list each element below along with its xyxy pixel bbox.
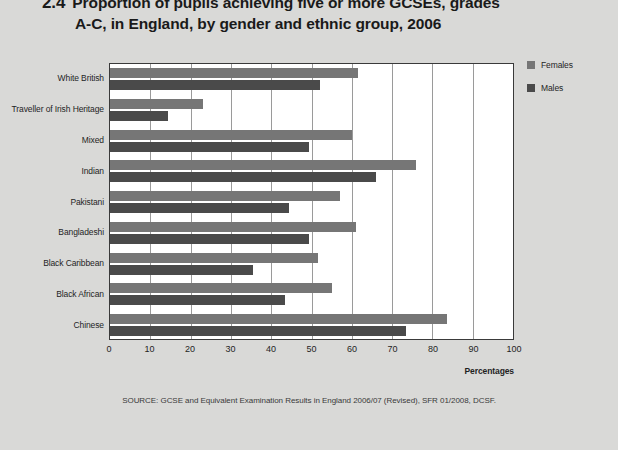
bar-group xyxy=(110,249,513,280)
bar-females xyxy=(110,160,416,170)
x-axis-tick-label: 50 xyxy=(306,344,316,354)
y-axis-labels: White BritishTraveller of Irish Heritage… xyxy=(0,63,104,340)
bar-females xyxy=(110,314,447,324)
x-axis-tick-label: 60 xyxy=(347,344,357,354)
y-axis-tick-label: Indian xyxy=(0,166,104,176)
bar-group xyxy=(110,218,513,249)
legend-swatch-icon xyxy=(527,84,535,92)
bar-males xyxy=(110,203,289,213)
bar-females xyxy=(110,283,332,293)
y-axis-tick-label: Bangladeshi xyxy=(0,227,104,237)
legend-label: Females xyxy=(541,60,573,70)
bar-males xyxy=(110,172,376,182)
x-axis-tick-label: 100 xyxy=(506,344,521,354)
chart-container: White BritishTraveller of Irish Heritage… xyxy=(0,56,618,356)
source-note: SOURCE: GCSE and Equivalent Examination … xyxy=(0,396,618,405)
x-axis-tick-label: 10 xyxy=(144,344,154,354)
y-axis-tick-label: Chinese xyxy=(0,320,104,330)
chart-legend: FemalesMales xyxy=(527,60,613,106)
bar-group xyxy=(110,187,513,218)
x-axis-tick-label: 80 xyxy=(428,344,438,354)
bar-males xyxy=(110,265,253,275)
legend-label: Males xyxy=(541,83,563,93)
bar-males xyxy=(110,80,320,90)
x-axis-labels: 0102030405060708090100 xyxy=(109,344,514,360)
bar-males xyxy=(110,234,309,244)
bar-females xyxy=(110,253,318,263)
bar-males xyxy=(110,295,285,305)
title-number: 2.4 xyxy=(42,0,65,12)
x-axis-title: Percentages xyxy=(109,366,514,376)
bar-group xyxy=(110,310,513,341)
x-axis-tick-label: 70 xyxy=(387,344,397,354)
bar-males xyxy=(110,111,168,121)
y-axis-tick-label: Mixed xyxy=(0,135,104,145)
title-line-1: Proportion of pupils achieving five or m… xyxy=(72,0,500,11)
y-axis-tick-label: Pakistani xyxy=(0,197,104,207)
chart-title-block: 2.4Proportion of pupils achieving five o… xyxy=(0,0,618,34)
y-axis-tick-label: Black African xyxy=(0,289,104,299)
y-axis-tick-label: Traveller of Irish Heritage xyxy=(0,104,104,114)
legend-item-females: Females xyxy=(527,60,613,70)
title-line-2: A-C, in England, by gender and ethnic gr… xyxy=(75,13,600,34)
x-axis-tick-label: 40 xyxy=(266,344,276,354)
bar-group xyxy=(110,64,513,95)
bar-rows xyxy=(110,64,513,339)
y-axis-tick-label: Black Caribbean xyxy=(0,258,104,268)
bar-females xyxy=(110,99,203,109)
bar-females xyxy=(110,130,352,140)
x-axis-tick-label: 0 xyxy=(106,344,111,354)
bar-females xyxy=(110,222,356,232)
x-axis-tick-label: 20 xyxy=(185,344,195,354)
bar-females xyxy=(110,68,358,78)
bar-females xyxy=(110,191,340,201)
x-axis-tick-label: 30 xyxy=(225,344,235,354)
bar-group xyxy=(110,95,513,126)
legend-item-males: Males xyxy=(527,83,613,93)
bar-group xyxy=(110,279,513,310)
bar-group xyxy=(110,126,513,157)
legend-swatch-icon xyxy=(527,61,535,69)
bar-group xyxy=(110,156,513,187)
bar-males xyxy=(110,326,406,336)
plot-area xyxy=(109,63,514,340)
x-axis-tick-label: 90 xyxy=(468,344,478,354)
bar-males xyxy=(110,142,309,152)
y-axis-tick-label: White British xyxy=(0,73,104,83)
page-title: 2.4Proportion of pupils achieving five o… xyxy=(42,0,600,34)
